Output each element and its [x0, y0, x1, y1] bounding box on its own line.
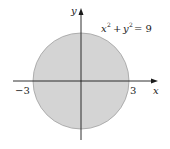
y-axis-label: y	[70, 5, 77, 16]
tick-3: 3	[130, 85, 136, 96]
x-axis-label: x	[153, 85, 159, 96]
equation-label: x 2 + y 2 = 9	[101, 21, 152, 34]
tick-neg-3: −3	[15, 85, 30, 96]
svg-text:+: +	[113, 23, 121, 34]
y-axis-arrow-icon	[79, 8, 84, 15]
circle-diagram: y x −3 3 x 2 + y 2 = 9	[0, 0, 170, 149]
svg-text:2: 2	[129, 21, 133, 28]
svg-text:y: y	[122, 23, 129, 34]
svg-text:= 9: = 9	[134, 23, 152, 34]
x-axis-arrow-icon	[151, 79, 158, 84]
svg-text:2: 2	[107, 21, 111, 28]
